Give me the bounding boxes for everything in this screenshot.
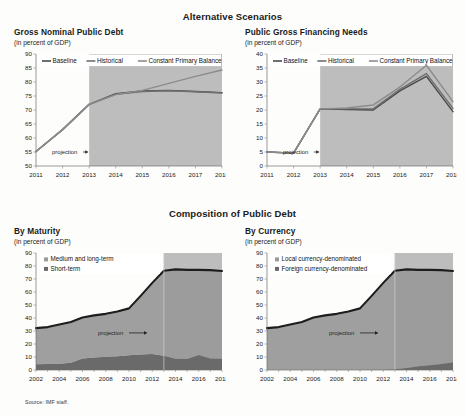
chart-label: 2018 (446, 375, 457, 382)
chart-label: 2012 (376, 375, 390, 382)
chart-label: 90 (25, 50, 32, 57)
chart-label: 10 (256, 353, 263, 360)
chart-label: 2012 (145, 375, 159, 382)
chart-label: 30 (256, 327, 263, 334)
chart-gross-nominal-public-debt: 5055606570758085902011201220132014201520… (14, 48, 226, 188)
chart-label: 2008 (99, 375, 113, 382)
chart-svg-by-currency: 0102030405060708090200220042006200820102… (245, 247, 457, 392)
panel-title-gross-nominal-public-debt: Gross Nominal Public Debt (14, 27, 226, 37)
chart-label: 60 (25, 134, 32, 141)
chart-by-maturity: 0102030405060708090200220042006200820102… (14, 247, 226, 392)
panel-title-public-gross-financing-needs: Public Gross Financing Needs (245, 27, 457, 37)
panel-title-by-currency: By Currency (245, 226, 457, 236)
chart-label: 2018 (215, 171, 226, 178)
chart-label: 2010 (122, 375, 136, 382)
panel-unit-by-currency: (in percent of GDP) (245, 238, 457, 245)
chart-label: 2004 (283, 375, 297, 382)
projection-shading (89, 54, 222, 166)
chart-label: 80 (25, 262, 32, 269)
chart-label: 2016 (162, 171, 176, 178)
chart-label: 5 (260, 148, 264, 155)
chart-label: 15 (256, 120, 263, 127)
chart-label: 90 (256, 249, 263, 256)
chart-label: 2016 (393, 171, 407, 178)
chart-label: 40 (256, 50, 263, 57)
chart-label: 70 (25, 106, 32, 113)
chart-label: 20 (256, 106, 263, 113)
chart-label: 2004 (52, 375, 66, 382)
projection-annotation: projection (283, 149, 308, 155)
panel-unit-gross-nominal-public-debt: (in percent of GDP) (14, 39, 226, 46)
chart-svg-public-gross-financing-needs: 0510152025303540201120122013201420152016… (245, 48, 457, 188)
chart-label: 2017 (189, 171, 203, 178)
chart-label: 40 (256, 314, 263, 321)
chart-label: 75 (25, 92, 32, 99)
panel-unit-by-maturity: (in percent of GDP) (14, 238, 226, 245)
chart-public-gross-financing-needs: 0510152025303540201120122013201420152016… (245, 48, 457, 188)
chart-label: 0 (260, 162, 264, 169)
chart-label: 30 (256, 78, 263, 85)
legend-label: Short-term (51, 265, 81, 272)
projection-arrow-head (316, 150, 319, 154)
projection-annotation: projection (329, 330, 354, 336)
chart-label: 50 (25, 162, 32, 169)
chart-label: 85 (25, 64, 32, 71)
chart-svg-gross-nominal-public-debt: 5055606570758085902011201220132014201520… (14, 48, 226, 188)
chart-label: 65 (25, 120, 32, 127)
chart-label: 2011 (260, 171, 274, 178)
chart-label: 70 (256, 275, 263, 282)
legend-label: Foreign currency-denominated (282, 265, 368, 273)
chart-label: 55 (25, 148, 32, 155)
chart-label: 10 (25, 353, 32, 360)
section-title-composition-of-public-debt: Composition of Public Debt (0, 208, 465, 219)
chart-label: 2013 (313, 171, 327, 178)
chart-label: 2014 (169, 375, 183, 382)
panel-public-gross-financing-needs: Public Gross Financing Needs (in percent… (245, 27, 457, 188)
dsa-figure-page: Alternative Scenarios Composition of Pub… (0, 0, 465, 416)
chart-svg-by-maturity: 0102030405060708090200220042006200820102… (14, 247, 226, 392)
chart-label: 60 (256, 288, 263, 295)
projection-annotation: projection (98, 330, 123, 336)
panel-title-by-maturity: By Maturity (14, 226, 226, 236)
chart-label: 70 (25, 275, 32, 282)
legend-label: Constant Primary Balance (379, 57, 453, 65)
chart-label: 2006 (307, 375, 321, 382)
chart-label: 2010 (353, 375, 367, 382)
chart-label: 0 (260, 366, 264, 373)
chart-label: 2014 (109, 171, 123, 178)
chart-label: 50 (256, 301, 263, 308)
chart-label: 2012 (56, 171, 70, 178)
chart-label: 2014 (400, 375, 414, 382)
chart-label: 2008 (330, 375, 344, 382)
chart-label: 2017 (420, 171, 434, 178)
chart-label: 40 (25, 314, 32, 321)
legend-swatch (275, 267, 279, 271)
area-upper-series (267, 269, 453, 369)
chart-label: 2014 (340, 171, 354, 178)
legend-label: Medium and long-term (51, 255, 114, 263)
chart-label: 2015 (366, 171, 380, 178)
chart-label: 20 (25, 340, 32, 347)
panel-by-maturity: By Maturity (in percent of GDP) 01020304… (14, 226, 226, 392)
projection-arrow-head (85, 150, 88, 154)
chart-label: 2012 (287, 171, 301, 178)
chart-label: 2016 (192, 375, 206, 382)
chart-label: 35 (256, 64, 263, 71)
chart-label: 30 (25, 327, 32, 334)
chart-label: 2018 (215, 375, 226, 382)
legend-swatch (44, 267, 48, 271)
chart-label: 2011 (29, 171, 43, 178)
chart-label: 2002 (260, 375, 274, 382)
legend-label: Historical (97, 57, 123, 64)
chart-label: 10 (256, 134, 263, 141)
chart-label: 2015 (135, 171, 149, 178)
chart-label: 0 (29, 366, 33, 373)
chart-label: 60 (25, 288, 32, 295)
panel-gross-nominal-public-debt: Gross Nominal Public Debt (in percent of… (14, 27, 226, 188)
chart-label: 80 (25, 78, 32, 85)
chart-label: 2002 (29, 375, 43, 382)
chart-label: 2006 (76, 375, 90, 382)
legend-label: Baseline (284, 57, 309, 64)
chart-label: 2016 (423, 375, 437, 382)
chart-label: 2013 (82, 171, 96, 178)
